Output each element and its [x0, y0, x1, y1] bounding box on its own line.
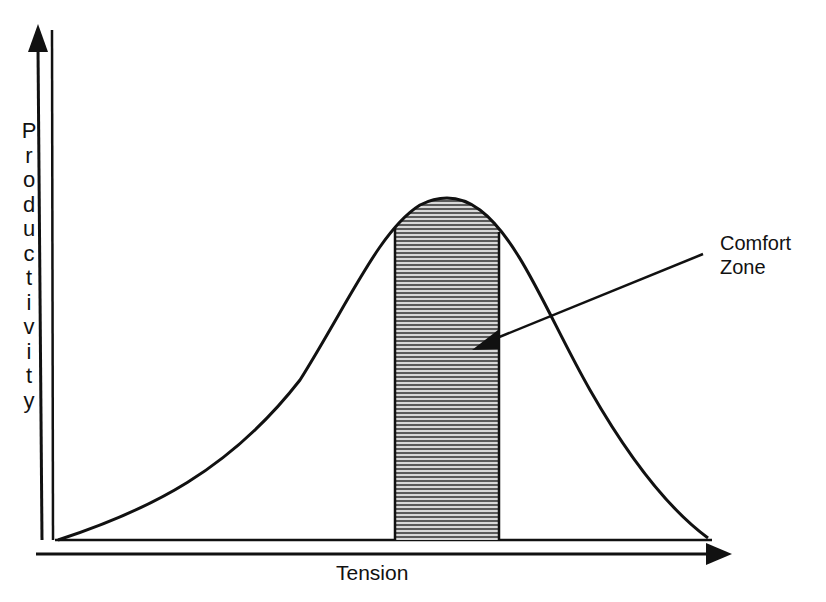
comfort-zone-band: [395, 190, 499, 540]
annotation-label-line1: Comfort: [720, 232, 791, 254]
diagram-canvas: [0, 0, 826, 602]
y-axis-label-letter: d: [19, 194, 39, 216]
y-axis-label-letter: y: [19, 390, 39, 412]
y-axis-label-letter: c: [19, 243, 39, 265]
x-axis-label: Tension: [336, 562, 408, 584]
y-axis-label-letter: r: [19, 145, 39, 167]
productivity-curve: [58, 198, 708, 540]
y-axis-label-letter: o: [19, 169, 39, 191]
y-axis-label-letter: v: [19, 316, 39, 338]
y-axis-label-letter: t: [19, 267, 39, 289]
y-axis-label-letter: i: [19, 292, 39, 314]
y-axis-label-letter: i: [19, 341, 39, 363]
y-axis-label-letter: u: [19, 218, 39, 240]
y-axis-label-letter: P: [19, 120, 39, 142]
annotation-label-line2: Zone: [720, 256, 766, 278]
y-axis-line: [52, 30, 53, 540]
annotation-arrow: [472, 254, 703, 350]
comfort-zone-diagram: Productivity Tension Comfort Zone: [0, 0, 826, 602]
y-axis-label-letter: t: [19, 365, 39, 387]
